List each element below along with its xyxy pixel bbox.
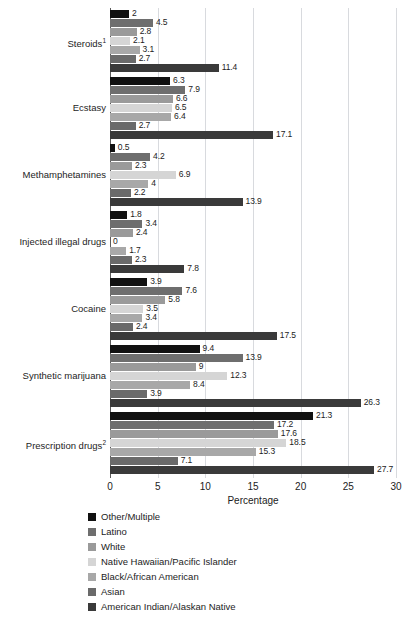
bar-value-label: 7.1 (181, 455, 193, 466)
category-label: Prescription drugs2 (0, 437, 106, 452)
x-tick-label: 5 (155, 480, 161, 493)
bar-value-label: 26.3 (364, 397, 380, 408)
bar-value-label: 9 (199, 361, 204, 372)
bar-row: 17.2 (110, 421, 396, 429)
category-label: Steroids1 (0, 35, 106, 50)
bar-chart: 24.52.82.13.12.711.46.37.96.66.56.42.717… (0, 0, 408, 619)
bar-row: 2.4 (110, 323, 396, 331)
x-tick-label: 25 (343, 480, 354, 493)
bar-value-label: 7.8 (187, 263, 199, 274)
bar-row: 7.8 (110, 265, 396, 273)
bar-group: 9.413.9912.38.43.926.3 (110, 345, 396, 408)
bar-row: 3.1 (110, 46, 396, 54)
bar (110, 457, 178, 465)
bar-group: 3.97.65.83.53.42.417.5 (110, 278, 396, 341)
bar-value-label: 4.5 (156, 17, 168, 28)
legend-swatch-icon (88, 528, 96, 536)
bar-value-label: 17.5 (280, 330, 296, 341)
bar-value-label: 13.9 (246, 352, 262, 363)
x-tick-label: 30 (390, 480, 401, 493)
bar-row: 4.2 (110, 153, 396, 161)
bar (110, 421, 274, 429)
legend-item[interactable]: American Indian/Alaskan Native (88, 599, 388, 614)
bar-value-label: 6.4 (174, 111, 186, 122)
bar-row: 11.4 (110, 64, 396, 72)
bar (110, 144, 115, 152)
bar-value-label: 13.9 (246, 196, 262, 207)
legend-label: Asian (101, 586, 125, 598)
category-label: Injected illegal drugs (0, 236, 106, 248)
bar-value-label: 2.3 (135, 160, 147, 171)
bar-group: 0.54.22.36.942.213.9 (110, 144, 396, 207)
x-tick-label: 10 (200, 480, 211, 493)
bar (110, 86, 185, 94)
bar-value-label: 21.3 (316, 410, 332, 421)
bar-row: 7.1 (110, 457, 396, 465)
bar-row: 9 (110, 363, 396, 371)
bar-row: 17.1 (110, 131, 396, 139)
bar (110, 131, 273, 139)
bar-value-label: 18.5 (289, 437, 305, 448)
category-label: Methamphetamines (0, 169, 106, 181)
category-label: Synthetic marijuana (0, 370, 106, 382)
bar (110, 354, 243, 362)
bar-row: 7.9 (110, 86, 396, 94)
bar-row: 3.9 (110, 390, 396, 398)
x-axis-title: Percentage (110, 494, 396, 507)
legend-swatch-icon (88, 573, 96, 581)
bar-value-label: 2.7 (139, 120, 151, 131)
bar (110, 372, 227, 380)
bar (110, 171, 176, 179)
bar (110, 278, 147, 286)
legend-label: Latino (101, 526, 127, 538)
x-tick-label: 0 (107, 480, 113, 493)
bar (110, 198, 243, 206)
bar (110, 399, 361, 407)
legend-item[interactable]: Black/African American (88, 569, 388, 584)
bar-row: 4.5 (110, 19, 396, 27)
bar (110, 46, 140, 54)
bar-value-label: 2.4 (136, 321, 148, 332)
bar-row: 2.3 (110, 162, 396, 170)
bar-value-label: 0.5 (118, 142, 130, 153)
bar-value-label: 2.4 (136, 227, 148, 238)
legend-label: Other/Multiple (101, 511, 160, 523)
bar (110, 323, 133, 331)
bar-row: 13.9 (110, 354, 396, 362)
bar (110, 390, 147, 398)
legend-swatch-icon (88, 603, 96, 611)
bar (110, 305, 143, 313)
bar-row: 6.3 (110, 77, 396, 85)
bar-group: 24.52.82.13.12.711.4 (110, 10, 396, 73)
legend-item[interactable]: Latino (88, 524, 388, 539)
legend-item[interactable]: White (88, 539, 388, 554)
bar-group: 21.317.217.618.515.37.127.7 (110, 412, 396, 475)
bar-value-label: 3.9 (150, 388, 162, 399)
legend-item[interactable]: Asian (88, 584, 388, 599)
legend-item[interactable]: Native Hawaiian/Pacific Islander (88, 554, 388, 569)
legend-item[interactable]: Other/Multiple (88, 509, 388, 524)
gridline-30 (396, 8, 397, 478)
legend-label: American Indian/Alaskan Native (101, 601, 236, 613)
bar (110, 256, 132, 264)
bar (110, 345, 200, 353)
bar-row: 26.3 (110, 399, 396, 407)
bar-value-label: 9.4 (203, 343, 215, 354)
bar-value-label: 12.3 (230, 370, 246, 381)
bar-row: 4 (110, 180, 396, 188)
bar (110, 77, 170, 85)
bar-group: 6.37.96.66.56.42.717.1 (110, 77, 396, 140)
bar-value-label: 2 (132, 8, 137, 19)
footnote-marker: 2 (102, 439, 106, 446)
bar (110, 64, 219, 72)
bar-value-label: 6.3 (173, 75, 185, 86)
bar-row: 2.8 (110, 28, 396, 36)
category-label: Cocaine (0, 303, 106, 315)
legend-label: White (101, 541, 125, 553)
bar-row: 13.9 (110, 198, 396, 206)
bar-row: 6.4 (110, 113, 396, 121)
bar-row: 3.9 (110, 278, 396, 286)
legend-swatch-icon (88, 588, 96, 596)
x-tick-label: 20 (295, 480, 306, 493)
bar-row: 3.4 (110, 314, 396, 322)
